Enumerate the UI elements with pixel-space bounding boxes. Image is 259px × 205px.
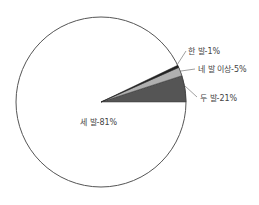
label-two: 두 발-21% [200,93,238,103]
label-three: 세 발-81% [80,117,118,127]
pie-chart: 한 발-1% 네 발 이상-5% 두 발-21% 세 발-81% [0,0,259,205]
label-one: 한 발-1% [188,46,221,56]
leader-line-two [185,86,197,97]
label-four-plus: 네 발 이상-5% [198,64,247,74]
leader-line-one [177,51,186,65]
leader-line-four-plus [181,69,195,71]
pie [16,17,186,187]
